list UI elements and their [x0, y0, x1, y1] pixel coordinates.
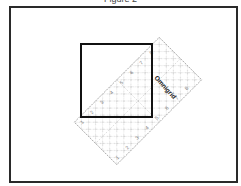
quilting-ruler: 123 456 78 123 456 78	[74, 37, 201, 164]
diagram-canvas: 123 456 78 123 456 78 Omnigrid	[0, 0, 241, 186]
